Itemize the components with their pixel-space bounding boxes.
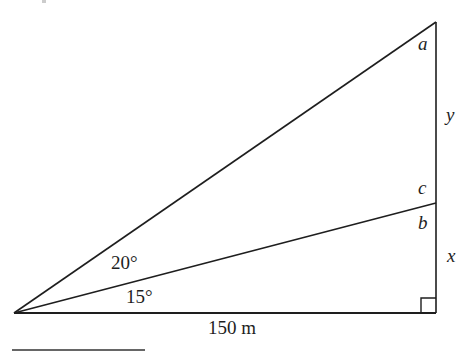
label-angle-15: 15° [126,286,153,307]
hypotenuse-lower [14,203,436,313]
label-base-length: 150 m [208,317,256,338]
label-angle-a: a [418,33,428,54]
label-segment-x: x [446,245,456,266]
label-angle-20: 20° [111,252,138,273]
hypotenuse-upper [14,22,436,313]
diagram-canvas: a y c b x 20° 15° 150 m [0,0,468,352]
right-angle-marker [421,298,436,313]
triangle-diagram: a y c b x 20° 15° 150 m [0,0,468,352]
label-angle-c: c [418,177,427,198]
scan-artifact [42,0,46,3]
label-segment-y: y [444,104,455,125]
label-angle-b: b [418,212,428,233]
